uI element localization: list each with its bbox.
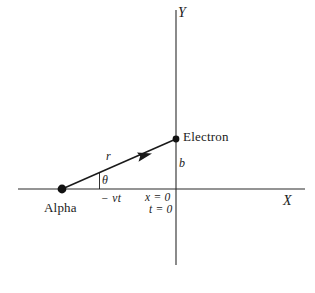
y-axis-label: Y [178,6,186,20]
origin-t-condition-label: t = 0 [149,204,172,216]
electron-particle-dot [173,136,180,143]
alpha-label: Alpha [44,201,77,214]
separation-vector-arrowhead [137,153,152,162]
separation-vector-line [62,139,176,189]
physics-diagram-figure: Y X Electron Alpha r θ − vt b x = 0 t = … [0,0,315,293]
separation-r-label: r [106,150,111,162]
diagram-canvas [0,0,315,293]
alpha-particle-dot [58,185,67,194]
impact-parameter-b-label: b [179,157,185,169]
electron-label: Electron [183,130,229,143]
x-axis-label: X [283,194,292,208]
origin-x-condition-label: x = 0 [145,192,170,204]
displacement-vt-label: − vt [101,193,121,205]
theta-angle-label: θ [102,174,108,186]
